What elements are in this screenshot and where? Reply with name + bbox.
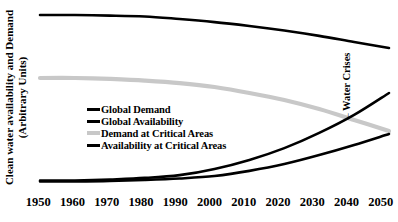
legend-item-demand-critical-areas: Demand at Critical Areas	[87, 127, 226, 139]
legend-swatch-line-icon	[87, 131, 100, 135]
legend-label: Global Availability	[101, 116, 183, 127]
y-axis-label-line1: Clean water availability and Demand	[3, 3, 16, 193]
x-tick-1990: 1990	[158, 195, 192, 210]
x-axis-tick-labels: 1950 1960 1970 1980 1990 2000 2010 2020 …	[21, 195, 398, 210]
y-axis-label: Clean water availability and Demand (Arb…	[3, 3, 30, 193]
y-axis-label-line2: (Arbitrary Units)	[16, 3, 29, 193]
x-tick-2030: 2030	[295, 195, 329, 210]
legend-label: Global Demand	[101, 104, 171, 115]
curve-global-availability	[40, 15, 389, 48]
x-tick-2040: 2040	[329, 195, 363, 210]
x-tick-1950: 1950	[21, 195, 55, 210]
water-availability-demand-figure: Clean water availability and Demand (Arb…	[0, 0, 398, 222]
x-tick-1970: 1970	[90, 195, 124, 210]
legend-swatch-line-icon	[87, 144, 100, 147]
x-tick-2000: 2000	[192, 195, 226, 210]
legend-item-availability-critical-areas: Availability at Critical Areas	[87, 139, 226, 151]
x-tick-2050: 2050	[364, 195, 398, 210]
x-tick-1980: 1980	[124, 195, 158, 210]
x-tick-2010: 2010	[227, 195, 261, 210]
legend-swatch-line-icon	[87, 120, 100, 123]
x-tick-2020: 2020	[261, 195, 295, 210]
legend-label: Availability at Critical Areas	[101, 140, 226, 151]
legend-item-global-availability: Global Availability	[87, 115, 226, 127]
legend-label: Demand at Critical Areas	[101, 128, 213, 139]
legend: Global Demand Global Availability Demand…	[87, 103, 226, 151]
water-crises-annotation: ←Water Crises	[341, 34, 356, 122]
x-tick-1960: 1960	[55, 195, 89, 210]
legend-item-global-demand: Global Demand	[87, 103, 226, 115]
legend-swatch-line-icon	[87, 108, 100, 111]
